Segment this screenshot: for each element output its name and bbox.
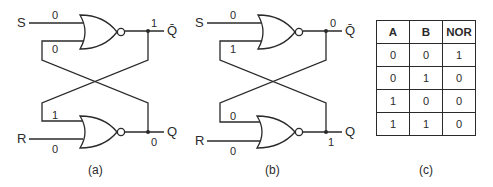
cell-b: 0 [410, 90, 443, 113]
header-b: B [410, 21, 443, 44]
cell-b: 1 [410, 67, 443, 90]
table-row: 0 0 1 [377, 44, 476, 67]
q-label: Q [345, 125, 355, 138]
nor-gate-top [258, 15, 295, 49]
inversion-bubble-bottom [295, 128, 302, 135]
junction-dot-q [324, 130, 328, 134]
nor-gate-bottom [80, 116, 117, 148]
cell-nor: 0 [443, 67, 476, 90]
cell-a: 0 [377, 67, 410, 90]
inversion-bubble-top [117, 28, 124, 35]
junction-dot-q [146, 130, 150, 134]
q-value: 0 [151, 137, 157, 148]
qbar-value: 1 [151, 18, 157, 29]
set-value: 0 [230, 10, 236, 21]
qbar-value: 0 [330, 18, 336, 29]
cell-b: 0 [410, 44, 443, 67]
nor-gate-top [80, 15, 117, 49]
header-a: A [377, 21, 410, 44]
inversion-bubble-top [295, 28, 302, 35]
inversion-bubble-bottom [117, 128, 124, 135]
table-header-row: A B NOR [377, 21, 476, 44]
top-feedback-value: 0 [52, 44, 58, 55]
cell-nor: 1 [443, 44, 476, 67]
cell-a: 1 [377, 113, 410, 136]
bottom-feedback-value: 1 [52, 110, 58, 121]
table-row: 1 0 0 [377, 90, 476, 113]
set-label: S [195, 16, 204, 29]
qbar-label: Q̄ [167, 24, 177, 37]
bottom-feedback-value: 0 [230, 111, 236, 122]
q-value: 1 [328, 137, 334, 148]
caption-a: (a) [88, 164, 103, 176]
cell-a: 0 [377, 44, 410, 67]
junction-dot-qbar [146, 29, 150, 33]
reset-value: 0 [52, 144, 58, 155]
cell-b: 1 [410, 113, 443, 136]
caption-b: (b) [265, 164, 280, 176]
latch-b [207, 15, 342, 148]
table-row: 0 1 0 [377, 67, 476, 90]
cell-a: 1 [377, 90, 410, 113]
reset-value: 0 [230, 146, 236, 157]
cell-nor: 0 [443, 113, 476, 136]
cell-nor: 0 [443, 90, 476, 113]
latch-a [29, 15, 164, 148]
reset-label: R [17, 132, 26, 145]
q-label: Q [167, 125, 177, 138]
nor-truth-table: A B NOR 0 0 1 0 1 0 1 0 0 1 1 0 [376, 20, 476, 136]
header-nor: NOR [443, 21, 476, 44]
set-value: 0 [52, 10, 58, 21]
qbar-label: Q̄ [345, 24, 355, 37]
set-label: S [17, 16, 26, 29]
reset-label: R [195, 134, 204, 147]
top-feedback-value: 1 [230, 44, 236, 55]
caption-c: (c) [419, 164, 433, 176]
table-row: 1 1 0 [377, 113, 476, 136]
junction-dot-qbar [324, 29, 328, 33]
nor-gate-bottom [257, 116, 295, 148]
